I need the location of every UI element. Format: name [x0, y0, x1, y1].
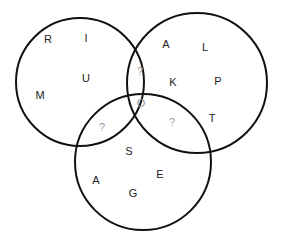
letter-right-L: L: [202, 41, 208, 53]
intersection-all-three: O: [137, 97, 146, 109]
letter-left-U: U: [82, 72, 90, 84]
circle-right: [127, 13, 267, 153]
circle-bottom: [75, 94, 211, 230]
intersection-left-bottom: ?: [99, 121, 105, 133]
letter-right-T: T: [209, 112, 216, 124]
venn-diagram: R I U M A L K P T S A E G ? ? ? O: [0, 0, 284, 237]
circle-left: [16, 18, 144, 146]
letter-bottom-G: G: [129, 187, 138, 199]
letter-left-R: R: [44, 33, 52, 45]
letter-right-A: A: [162, 38, 170, 50]
intersection-right-bottom: ?: [169, 116, 175, 128]
intersection-left-right: ?: [137, 65, 143, 77]
letter-right-K: K: [169, 76, 177, 88]
letter-bottom-A: A: [92, 174, 100, 186]
letter-bottom-S: S: [125, 145, 132, 157]
letter-right-P: P: [214, 75, 221, 87]
letter-left-I: I: [84, 32, 87, 44]
letter-bottom-E: E: [156, 168, 163, 180]
letter-left-M: M: [35, 89, 44, 101]
